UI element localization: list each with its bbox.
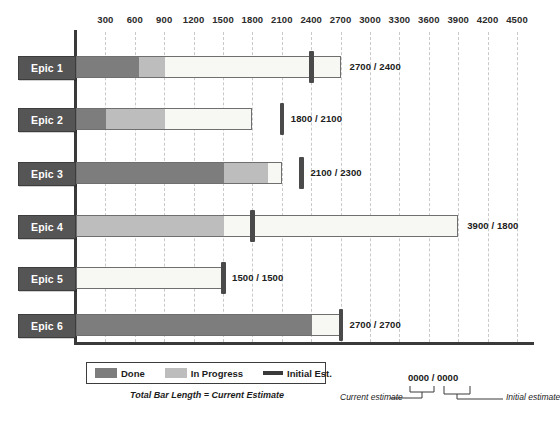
bar-epic-1[interactable] bbox=[76, 56, 341, 78]
x-tick-1500: 1500 bbox=[212, 14, 234, 25]
epic-label-5[interactable]: Epic 5 bbox=[18, 267, 76, 291]
legend-label-done: Done bbox=[121, 368, 145, 379]
chart-caption: Total Bar Length = Current Estimate bbox=[92, 390, 322, 400]
epic-label-4[interactable]: Epic 4 bbox=[18, 215, 76, 239]
epic-label-1[interactable]: Epic 1 bbox=[18, 56, 76, 80]
initial-estimate-marker-epic-5 bbox=[221, 262, 226, 294]
epic-label-3[interactable]: Epic 3 bbox=[18, 162, 76, 186]
x-tick-3300: 3300 bbox=[389, 14, 411, 25]
x-tick-2400: 2400 bbox=[300, 14, 322, 25]
segment-in-progress-epic-3 bbox=[224, 163, 268, 183]
value-label-epic-2: 1800 / 2100 bbox=[291, 113, 342, 124]
x-tick-4200: 4200 bbox=[477, 14, 499, 25]
callout-current-estimate-label: Current estimate bbox=[340, 392, 403, 402]
chart-row: Epic 21800 / 2100 bbox=[0, 104, 556, 134]
initial-estimate-marker-epic-3 bbox=[299, 157, 304, 189]
legend-label-initial-est: Initial Est. bbox=[287, 368, 332, 379]
chart-row: Epic 62700 / 2700 bbox=[0, 310, 556, 340]
x-tick-1800: 1800 bbox=[242, 14, 264, 25]
value-label-epic-1: 2700 / 2400 bbox=[350, 61, 401, 72]
chart-row: Epic 12700 / 2400 bbox=[0, 52, 556, 82]
chart-row: Epic 43900 / 1800 bbox=[0, 211, 556, 241]
legend-item-in-progress: In Progress bbox=[165, 368, 243, 379]
x-tick-3900: 3900 bbox=[447, 14, 469, 25]
segment-done-epic-1 bbox=[77, 57, 139, 77]
value-label-epic-5: 1500 / 1500 bbox=[232, 272, 283, 283]
bar-epic-4[interactable] bbox=[76, 215, 458, 237]
legend-item-done: Done bbox=[95, 368, 145, 379]
epic-label-2[interactable]: Epic 2 bbox=[18, 108, 76, 132]
x-tick-1200: 1200 bbox=[183, 14, 205, 25]
x-tick-900: 900 bbox=[156, 14, 172, 25]
epic-label-6[interactable]: Epic 6 bbox=[18, 314, 76, 338]
chart-legend: Done In Progress Initial Est. bbox=[86, 362, 326, 384]
segment-done-epic-6 bbox=[77, 315, 312, 335]
value-label-epic-3: 2100 / 2300 bbox=[310, 167, 361, 178]
initial-estimate-marker-epic-4 bbox=[250, 210, 255, 242]
x-tick-600: 600 bbox=[127, 14, 143, 25]
bar-epic-6[interactable] bbox=[76, 314, 341, 336]
chart-row: Epic 51500 / 1500 bbox=[0, 263, 556, 293]
legend-item-initial-est: Initial Est. bbox=[263, 368, 332, 379]
x-tick-2700: 2700 bbox=[330, 14, 352, 25]
segment-in-progress-epic-2 bbox=[106, 109, 165, 129]
x-tick-2100: 2100 bbox=[271, 14, 293, 25]
initial-estimate-marker-epic-2 bbox=[280, 103, 285, 135]
initial-estimate-marker-epic-1 bbox=[309, 51, 314, 83]
value-format-callout: 0000 / 0000 Current estimate Initial est… bbox=[340, 372, 556, 420]
value-label-epic-6: 2700 / 2700 bbox=[350, 319, 401, 330]
segment-done-epic-2 bbox=[77, 109, 106, 129]
legend-swatch-initial-est-icon bbox=[263, 371, 283, 375]
legend-swatch-in-progress-icon bbox=[165, 368, 187, 378]
value-label-epic-4: 3900 / 1800 bbox=[467, 220, 518, 231]
x-axis-line bbox=[74, 342, 534, 345]
bar-epic-2[interactable] bbox=[76, 108, 252, 130]
bar-epic-5[interactable] bbox=[76, 267, 223, 289]
x-tick-4500: 4500 bbox=[506, 14, 528, 25]
chart-row: Epic 32100 / 2300 bbox=[0, 158, 556, 188]
bar-epic-3[interactable] bbox=[76, 162, 282, 184]
initial-estimate-marker-epic-6 bbox=[339, 309, 344, 341]
x-tick-3600: 3600 bbox=[418, 14, 440, 25]
legend-swatch-done-icon bbox=[95, 368, 117, 378]
legend-label-in-progress: In Progress bbox=[191, 368, 243, 379]
segment-in-progress-epic-1 bbox=[139, 57, 165, 77]
segment-done-epic-3 bbox=[77, 163, 224, 183]
x-tick-3000: 3000 bbox=[359, 14, 381, 25]
x-tick-300: 300 bbox=[97, 14, 113, 25]
callout-initial-estimate-label: Initial estimate bbox=[506, 392, 560, 402]
segment-in-progress-epic-4 bbox=[77, 216, 224, 236]
